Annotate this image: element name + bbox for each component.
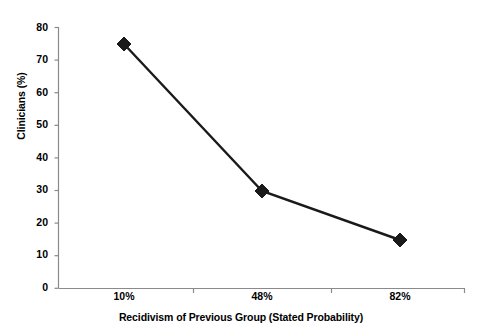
- data-point-marker: [393, 233, 407, 247]
- plot-area: [0, 0, 482, 336]
- data-line-clinicians: [124, 44, 400, 240]
- x-axis-ticks: [194, 289, 465, 294]
- line-chart: Clinicians (%) 80 70 60 50 40 30 20 10 0…: [0, 0, 482, 336]
- x-axis-title: Recidivism of Previous Group (Stated Pro…: [0, 311, 482, 323]
